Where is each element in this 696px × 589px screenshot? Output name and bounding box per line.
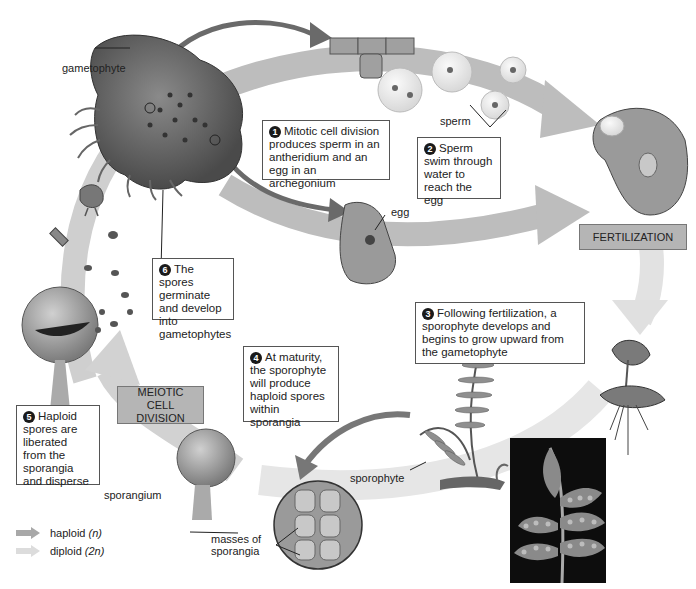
step-text: At maturity, the sporophyte will produce… [250, 351, 326, 428]
step-number-badge: 6 [159, 264, 171, 276]
step-number-badge: 2 [424, 143, 436, 155]
sporophyte-label: sporophyte [350, 472, 404, 484]
step-1-callout: 1Mitotic cell division produces sperm in… [262, 120, 390, 180]
legend-diploid-symbol: (2n) [85, 545, 105, 557]
step-6-callout: 6The spores germinate and develop into g… [152, 258, 234, 320]
sperm-label: sperm [440, 115, 471, 127]
step-3-callout: 3Following fertilization, a sporophyte d… [415, 302, 585, 364]
legend-haploid: haploid(n) [16, 527, 102, 539]
diploid-arrow-icon [16, 545, 40, 557]
step-2-callout: 2Sperm swim through water to reach the e… [417, 137, 501, 199]
legend-haploid-label: haploid [50, 527, 85, 539]
sporangium-label: sporangium [104, 489, 161, 501]
legend-diploid-label: diploid [50, 545, 82, 557]
gametophyte-label: gametophyte [62, 62, 126, 74]
step-number-badge: 5 [23, 411, 35, 423]
fern-life-cycle-diagram: 1Mitotic cell division produces sperm in… [0, 0, 696, 589]
step-number-badge: 4 [250, 352, 262, 364]
step-number-badge: 1 [269, 126, 281, 138]
step-text: Mitotic cell division produces sperm in … [269, 125, 380, 189]
legend-haploid-symbol: (n) [88, 527, 101, 539]
legend-diploid: diploid(2n) [16, 545, 104, 557]
step-number-badge: 3 [422, 308, 434, 320]
masses-of-sporangia-label: masses of sporangia [211, 533, 271, 557]
egg-label: egg [391, 206, 409, 218]
step-4-callout: 4At maturity, the sporophyte will produc… [243, 346, 339, 422]
meiotic-division-stage-box: MEIOTIC CELL DIVISION [117, 386, 204, 424]
haploid-arrow-icon [16, 527, 40, 539]
frond-icon [510, 438, 606, 583]
step-text: Following fertilization, a sporophyte de… [422, 307, 564, 358]
step-text: The spores germinate and develop into ga… [159, 263, 231, 340]
step-5-callout: 5Haploid spores are liberated from the s… [16, 405, 100, 485]
fern-frond-sori-photo [510, 438, 606, 583]
fertilization-stage-box: FERTILIZATION [579, 224, 687, 250]
